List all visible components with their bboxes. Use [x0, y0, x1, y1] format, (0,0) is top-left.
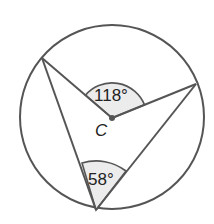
- inscribed-angle-label: 58°: [88, 170, 114, 189]
- center-label: C: [95, 121, 108, 140]
- central-angle-label: 118°: [94, 86, 128, 105]
- circle-angle-diagram: 118° C 58°: [0, 0, 214, 224]
- center-point: [109, 115, 115, 121]
